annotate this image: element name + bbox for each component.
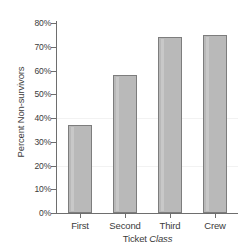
y-tick-0 — [51, 213, 57, 214]
x-axis-title-italic: Class — [149, 233, 172, 244]
y-tick-label: 30% — [17, 138, 51, 147]
y-tick-10 — [51, 189, 57, 190]
y-tick-50 — [51, 94, 57, 95]
y-tick-label: 10% — [17, 185, 51, 194]
x-tick-third — [170, 213, 171, 218]
x-tick-second — [125, 213, 126, 218]
x-axis-title-plain: Ticket — [123, 233, 147, 244]
y-tick-label: 70% — [17, 43, 51, 52]
bar-crew — [203, 35, 227, 213]
y-tick-label: 80% — [17, 19, 51, 28]
bar-first — [68, 125, 92, 213]
bar-chart: Percent Non-survivors 0%10%20%30%40%50%6… — [0, 0, 245, 250]
y-tick-label: 50% — [17, 90, 51, 99]
y-tick-80 — [51, 23, 57, 24]
y-tick-30 — [51, 142, 57, 143]
x-axis-title: Ticket Class — [57, 233, 238, 244]
y-tick-60 — [51, 71, 57, 72]
y-tick-40 — [51, 118, 57, 119]
x-tick-first — [80, 213, 81, 218]
y-tick-70 — [51, 47, 57, 48]
y-tick-label: 40% — [17, 114, 51, 123]
y-tick-label: 60% — [17, 67, 51, 76]
y-tick-20 — [51, 166, 57, 167]
x-axis-line — [57, 213, 238, 214]
bar-second — [113, 75, 137, 213]
x-tick-crew — [215, 213, 216, 218]
y-tick-label: 0% — [17, 209, 51, 218]
y-tick-label: 20% — [17, 162, 51, 171]
bar-third — [158, 37, 182, 213]
x-tick-label-crew: Crew — [187, 220, 243, 231]
y-axis-title: Percent Non-survivors — [14, 12, 28, 212]
